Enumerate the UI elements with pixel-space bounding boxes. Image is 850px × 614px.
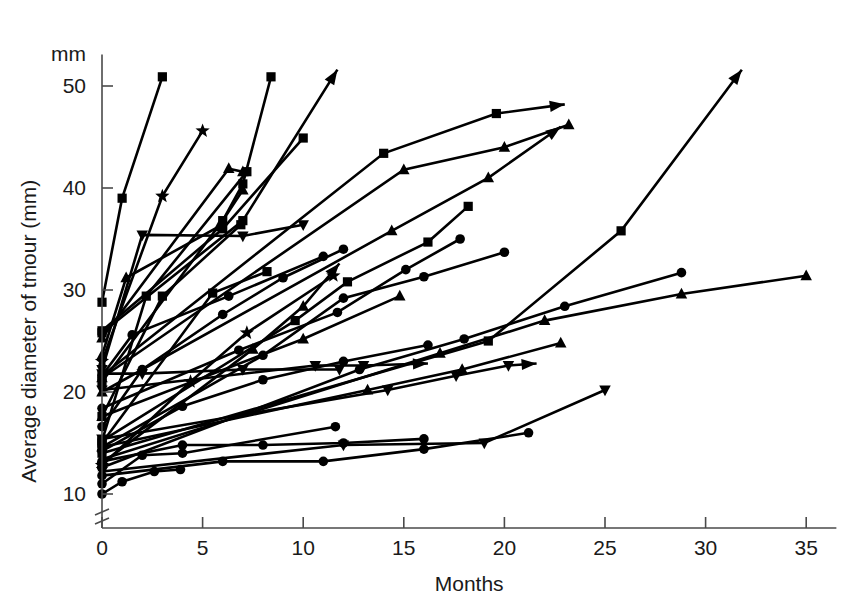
series-layer [95, 70, 812, 499]
data-point-circle [178, 448, 188, 458]
data-point-triangle-up [555, 337, 567, 348]
data-point-circle [560, 302, 570, 312]
x-tick-label-25: 25 [593, 536, 616, 559]
data-point-square [492, 109, 501, 118]
data-point-circle [455, 234, 465, 244]
y-tick-label-20: 20 [63, 380, 86, 403]
series-line [102, 296, 400, 416]
data-point-circle [117, 477, 127, 487]
x-tick-label-10: 10 [292, 536, 315, 559]
data-point-square [118, 194, 127, 203]
y-tick-label-30: 30 [63, 278, 86, 301]
data-point-circle [339, 438, 349, 448]
data-point-square [379, 149, 388, 158]
data-point-circle [137, 450, 147, 460]
data-point-circle [331, 422, 341, 432]
data-point-triangle-up [563, 119, 575, 130]
data-point-square [208, 288, 217, 297]
y-tick-label-40: 40 [63, 176, 86, 199]
data-point-square [616, 226, 625, 235]
x-axis-title: Months [435, 572, 504, 595]
data-point-star [155, 189, 169, 203]
series-arrow-end [325, 70, 338, 86]
axis-label-layer: 102030405005101520253035mmAverage diamet… [17, 42, 818, 595]
data-point-square [464, 202, 473, 211]
x-tick-label-0: 0 [96, 536, 108, 559]
data-point-square [142, 292, 151, 301]
chart-canvas: 102030405005101520253035mmAverage diamet… [0, 0, 850, 614]
data-point-circle [258, 440, 268, 450]
data-point-star [195, 123, 209, 137]
x-tick-label-15: 15 [392, 536, 415, 559]
x-tick-label-20: 20 [493, 536, 516, 559]
data-point-square [423, 237, 432, 246]
data-point-square [484, 336, 493, 345]
data-point-circle [319, 457, 329, 467]
data-point-circle [419, 444, 429, 454]
data-point-circle [339, 357, 349, 367]
data-point-circle [218, 310, 228, 320]
series-arrow-end [728, 70, 741, 85]
data-point-circle [524, 428, 534, 438]
data-point-triangle-up [223, 162, 235, 173]
series-arrow-end [545, 127, 560, 140]
data-point-circle [459, 334, 469, 344]
series-patient-28 [96, 269, 812, 463]
data-point-circle [500, 247, 510, 257]
series-patient-30 [97, 70, 741, 458]
x-tick-label-30: 30 [694, 536, 717, 559]
series-line [102, 343, 561, 447]
data-point-circle [339, 244, 349, 254]
data-point-circle [258, 375, 268, 385]
data-point-circle [234, 345, 244, 355]
data-point-circle [355, 365, 365, 375]
data-point-circle [178, 401, 188, 411]
data-point-square [158, 72, 167, 81]
y-tick-label-10: 10 [63, 482, 86, 505]
data-point-circle [333, 308, 343, 318]
series-arrow-end [549, 101, 565, 112]
data-point-circle [176, 465, 186, 475]
series-patient-08 [97, 101, 564, 380]
data-point-square [262, 267, 271, 276]
x-tick-label-35: 35 [795, 536, 818, 559]
data-point-triangle-up [394, 290, 406, 301]
data-point-circle [419, 272, 429, 282]
data-point-square [158, 292, 167, 301]
y-axis-unit-label: mm [51, 42, 86, 65]
data-point-circle [224, 291, 234, 301]
data-point-square [242, 167, 251, 176]
data-point-circle [401, 265, 411, 275]
tumour-growth-chart: 102030405005101520253035mmAverage diamet… [0, 0, 850, 614]
data-point-circle [419, 434, 429, 444]
series-line [102, 127, 561, 392]
data-point-square [236, 220, 245, 229]
series-line [102, 172, 247, 441]
data-point-square [343, 277, 352, 286]
x-tick-label-5: 5 [197, 536, 209, 559]
data-point-circle [278, 273, 288, 283]
y-axis-title: Average diameter of tmour (mm) [17, 180, 40, 483]
data-point-circle [677, 268, 687, 278]
data-point-triangle-up [483, 172, 495, 183]
series-line [102, 70, 337, 333]
data-point-circle [127, 330, 137, 340]
data-point-circle [150, 467, 160, 477]
y-tick-label-50: 50 [63, 74, 86, 97]
data-point-circle [339, 293, 349, 303]
data-point-circle [218, 457, 228, 467]
data-point-square [266, 72, 275, 81]
data-point-square [299, 133, 308, 142]
data-point-triangle-up [800, 269, 812, 280]
